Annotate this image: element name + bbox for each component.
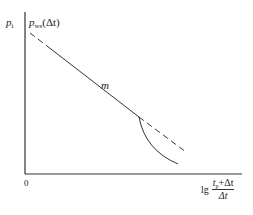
y-axis-label: pi (6, 16, 13, 30)
origin-label: 0 (24, 178, 29, 188)
slope-label: m (101, 79, 109, 91)
straight-line-solid (47, 46, 139, 117)
straight-line-dashed-extension (139, 117, 186, 152)
curve-label: pws(Δt) (29, 16, 60, 30)
straight-line-dashed-start (30, 33, 47, 46)
buildup-curve (139, 117, 178, 164)
x-axis-label: lg tp+Δt Δt (201, 177, 234, 201)
